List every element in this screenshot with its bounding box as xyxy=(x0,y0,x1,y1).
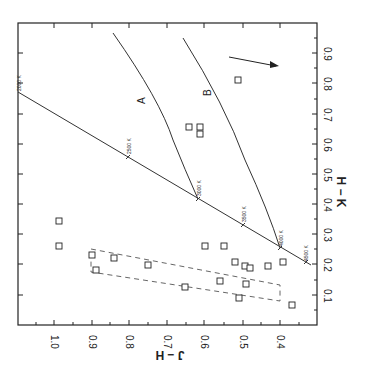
reddening-arrow xyxy=(229,57,276,66)
data-point xyxy=(217,278,223,284)
temp-label-3500: 3500 K xyxy=(241,205,247,222)
y-axis-title: H − K xyxy=(334,176,348,207)
temp-label-2500: 2500 K xyxy=(126,137,132,154)
x-tick-label: 0.4 xyxy=(275,335,286,349)
data-point xyxy=(182,284,188,290)
data-point xyxy=(247,265,253,271)
data-point xyxy=(265,263,271,269)
data-point xyxy=(93,267,99,273)
data-point xyxy=(56,218,62,224)
y-tick-label: 0.7 xyxy=(322,108,333,122)
y-tick-labels: 0.1 0.2 0.3 0.4 0.5 0.6 0.7 0.8 0.9 xyxy=(322,47,333,303)
data-point xyxy=(89,252,95,258)
x-tick-label: 0.9 xyxy=(87,335,98,349)
data-point xyxy=(280,259,286,265)
x-tick-label: 0.7 xyxy=(162,335,173,349)
plot-frame xyxy=(18,23,317,325)
data-point xyxy=(236,295,242,301)
temp-label-3000: 3000 K xyxy=(196,179,202,196)
temp-label-2000: 2000 K xyxy=(16,74,22,91)
arrow-head-icon xyxy=(270,61,279,68)
data-point xyxy=(111,255,117,261)
data-point xyxy=(145,262,151,268)
x-tick-label: 0.8 xyxy=(124,335,135,349)
x-axis-title: J − H xyxy=(155,348,184,362)
y-tick-label: 0.2 xyxy=(322,258,333,272)
top-axis-ticks xyxy=(54,23,280,28)
x-tick-label: 1.0 xyxy=(49,335,60,349)
curve-b-label: B xyxy=(202,89,213,96)
y-axis-ticks xyxy=(312,38,317,310)
x-tick-labels: 1.0 0.9 0.8 0.7 0.6 0.5 0.4 xyxy=(49,335,286,349)
data-point xyxy=(235,77,241,83)
data-point xyxy=(202,243,208,249)
x-tick-label: 0.5 xyxy=(238,335,249,349)
y-tick-label: 0.1 xyxy=(322,289,333,303)
data-point xyxy=(289,302,295,308)
y-tick-label: 0.8 xyxy=(322,77,333,91)
data-point xyxy=(197,124,203,130)
y-tick-label: 0.3 xyxy=(322,228,333,242)
x-axis-ticks xyxy=(36,320,299,325)
y-tick-label: 0.6 xyxy=(322,138,333,152)
data-point xyxy=(186,124,192,130)
y-tick-label: 0.9 xyxy=(322,47,333,61)
data-point xyxy=(197,131,203,137)
data-point xyxy=(221,243,227,249)
color-color-diagram: 1.0 0.9 0.8 0.7 0.6 0.5 0.4 J − H 0.1 0.… xyxy=(0,0,367,369)
data-point xyxy=(232,259,238,265)
y-tick-label: 0.5 xyxy=(322,168,333,182)
x-tick-label: 0.6 xyxy=(199,335,210,349)
curve-a-label: A xyxy=(136,97,147,104)
curve-a xyxy=(113,33,198,199)
data-point xyxy=(243,281,249,287)
curve-b xyxy=(183,38,280,248)
y-tick-label: 0.4 xyxy=(322,198,333,212)
data-point xyxy=(56,243,62,249)
temp-label-4500: 4500 K xyxy=(303,244,309,261)
dashed-region xyxy=(91,249,280,301)
